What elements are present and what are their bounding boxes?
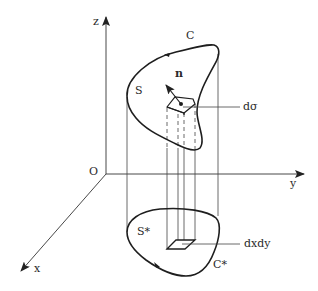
curve-c-label: C: [186, 30, 194, 41]
normal-n-label: n: [175, 68, 183, 79]
z-axis-label: z: [93, 16, 99, 27]
x-axis: [21, 174, 106, 271]
curve-c-star-label: C*: [213, 259, 227, 270]
dxdy-label: dxdy: [244, 238, 271, 249]
origin-label: O: [89, 166, 98, 177]
surface-s-label: S: [135, 85, 143, 96]
area-element-dxdy: [167, 240, 195, 249]
surface-s-boundary-c: [127, 45, 219, 150]
y-axis-label: y: [290, 178, 296, 189]
region-s-star-label: S*: [137, 226, 150, 237]
axes: [21, 17, 304, 271]
dsigma-label: dσ: [243, 101, 258, 112]
x-axis-label: x: [34, 263, 40, 274]
surface-projection-diagram: z y x O S C n dσ S* C* dxdy: [0, 0, 318, 291]
